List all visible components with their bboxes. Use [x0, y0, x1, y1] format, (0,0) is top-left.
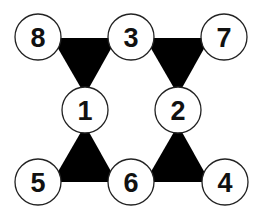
- node-6: 6: [108, 159, 154, 205]
- svg-text:3: 3: [123, 23, 138, 53]
- node-7: 7: [201, 14, 247, 60]
- number-triangle-diagram: 8 3 7 1 2 5 6 4: [0, 0, 262, 218]
- node-1: 1: [62, 87, 108, 133]
- svg-text:7: 7: [216, 23, 231, 53]
- node-3: 3: [108, 14, 154, 60]
- node-2: 2: [155, 87, 201, 133]
- svg-text:1: 1: [77, 96, 92, 126]
- svg-text:4: 4: [217, 168, 232, 198]
- svg-text:2: 2: [170, 96, 185, 126]
- svg-text:6: 6: [123, 168, 138, 198]
- svg-text:8: 8: [30, 23, 45, 53]
- node-4: 4: [202, 159, 248, 205]
- node-8: 8: [15, 14, 61, 60]
- node-5: 5: [15, 159, 61, 205]
- svg-text:5: 5: [30, 168, 45, 198]
